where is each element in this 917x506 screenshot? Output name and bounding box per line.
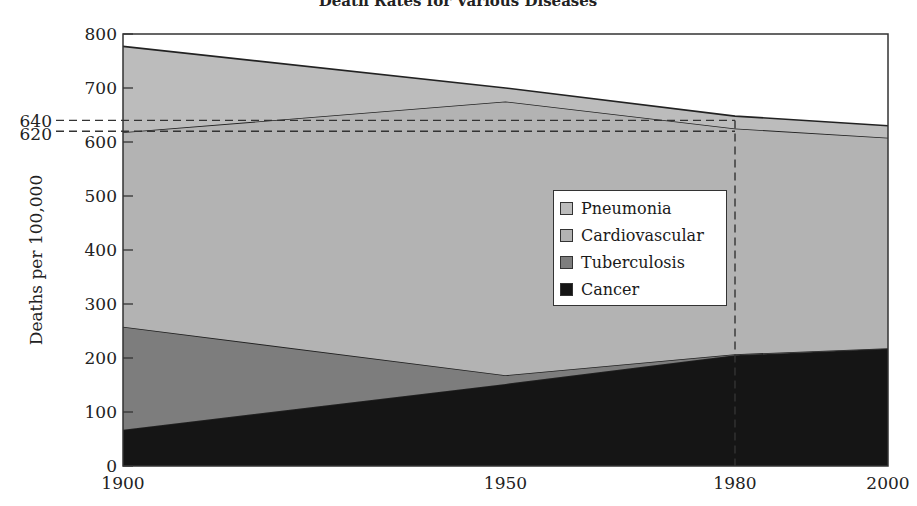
cardiovascular-swatch-icon [560, 229, 573, 242]
legend-label: Cardiovascular [581, 226, 704, 245]
y-tick-label: 300 [85, 294, 117, 314]
legend-item-cancer: Cancer [560, 276, 720, 303]
x-tick-label: 1980 [713, 473, 756, 493]
y-tick-label: 700 [85, 78, 117, 98]
chart-title: Death Rates for Various Diseases [319, 0, 598, 10]
tuberculosis-swatch-icon [560, 256, 573, 269]
annotation-620-label: 620 [20, 124, 52, 144]
cardiovascular-area [123, 102, 888, 376]
legend-item-cardiovascular: Cardiovascular [560, 222, 720, 249]
y-tick-label: 600 [85, 132, 117, 152]
x-tick-label: 1950 [484, 473, 527, 493]
y-tick-label: 800 [85, 24, 117, 44]
pneumonia-swatch-icon [560, 202, 573, 215]
legend-item-pneumonia: Pneumonia [560, 195, 720, 222]
x-axis: 1900195019802000 [101, 473, 909, 493]
x-tick-label: 1900 [101, 473, 144, 493]
legend-item-tuberculosis: Tuberculosis [560, 249, 720, 276]
y-tick-label: 500 [85, 186, 117, 206]
legend: Pneumonia Cardiovascular Tuberculosis Ca… [553, 190, 727, 306]
area-chart: Death Rates for Various Diseases 0100200… [0, 0, 917, 506]
y-tick-label: 100 [85, 402, 117, 422]
plot-areas [123, 46, 888, 466]
y-tick-label: 200 [85, 348, 117, 368]
legend-label: Tuberculosis [581, 253, 685, 272]
y-tick-label: 400 [85, 240, 117, 260]
cancer-swatch-icon [560, 283, 573, 296]
legend-label: Cancer [581, 280, 639, 299]
x-tick-label: 2000 [866, 473, 909, 493]
legend-label: Pneumonia [581, 199, 672, 218]
y-axis-label: Deaths per 100,000 [26, 175, 46, 346]
